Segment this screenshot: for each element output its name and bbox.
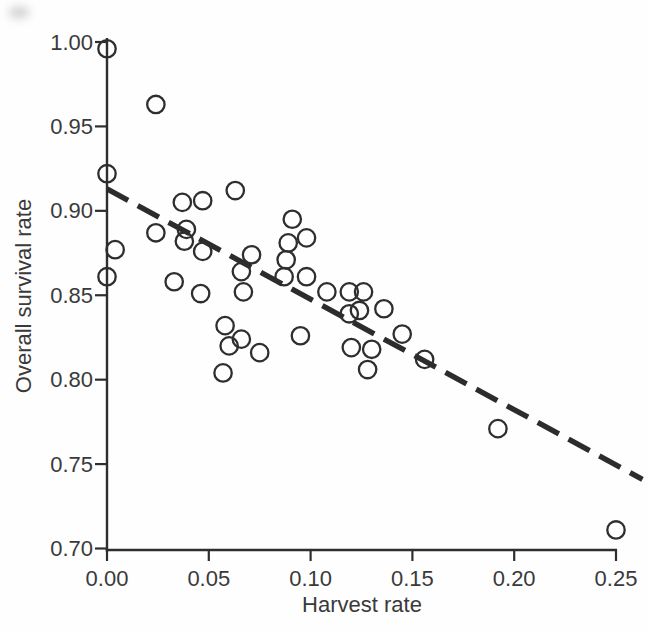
x-tick-label: 0.00 bbox=[86, 566, 129, 591]
data-point bbox=[607, 521, 624, 538]
data-point bbox=[343, 339, 360, 356]
x-tick-label: 0.20 bbox=[493, 566, 536, 591]
data-point bbox=[280, 234, 297, 251]
y-tick-label: 0.90 bbox=[50, 198, 93, 223]
data-point bbox=[194, 243, 211, 260]
data-point bbox=[147, 224, 164, 241]
data-point bbox=[394, 325, 411, 342]
data-point bbox=[106, 241, 123, 258]
data-point bbox=[298, 229, 315, 246]
data-point bbox=[359, 361, 376, 378]
data-point bbox=[292, 327, 309, 344]
data-point bbox=[251, 344, 268, 361]
data-point bbox=[194, 192, 211, 209]
data-point bbox=[341, 305, 358, 322]
y-tick-label: 0.70 bbox=[50, 536, 93, 561]
y-tick-label: 0.75 bbox=[50, 452, 93, 477]
data-point bbox=[375, 300, 392, 317]
data-point bbox=[192, 285, 209, 302]
x-tick-label: 0.15 bbox=[391, 566, 434, 591]
y-tick-label: 0.80 bbox=[50, 367, 93, 392]
data-point bbox=[298, 268, 315, 285]
data-point bbox=[235, 283, 252, 300]
x-tick-label: 0.25 bbox=[595, 566, 638, 591]
y-axis-title: Overall survival rate bbox=[11, 186, 37, 406]
data-point bbox=[277, 251, 294, 268]
data-point bbox=[165, 273, 182, 290]
y-tick-label: 0.95 bbox=[50, 114, 93, 139]
scatter-plot-figure: 1.000.950.900.850.800.750.700.000.050.10… bbox=[0, 0, 648, 632]
data-point bbox=[351, 302, 368, 319]
data-point bbox=[176, 233, 193, 250]
y-tick-label: 1.00 bbox=[50, 30, 93, 55]
chart-canvas: 1.000.950.900.850.800.750.700.000.050.10… bbox=[0, 0, 648, 632]
data-point bbox=[147, 96, 164, 113]
data-point bbox=[214, 364, 231, 381]
data-point bbox=[174, 194, 191, 211]
x-axis-title: Harvest rate bbox=[107, 592, 617, 618]
data-point bbox=[275, 268, 292, 285]
data-point bbox=[243, 246, 260, 263]
data-point bbox=[318, 283, 335, 300]
data-point bbox=[489, 420, 506, 437]
data-point bbox=[227, 182, 244, 199]
data-point bbox=[363, 341, 380, 358]
x-tick-label: 0.05 bbox=[187, 566, 230, 591]
data-point bbox=[233, 263, 250, 280]
y-tick-label: 0.85 bbox=[50, 283, 93, 308]
data-point bbox=[216, 317, 233, 334]
data-point bbox=[284, 211, 301, 228]
x-tick-label: 0.10 bbox=[289, 566, 332, 591]
